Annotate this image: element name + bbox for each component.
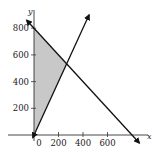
y-tick-label: 200: [13, 103, 29, 113]
x-tick-label: 0: [36, 138, 41, 148]
x-tick-label: 600: [99, 138, 115, 148]
x-tick-label: 200: [50, 138, 66, 148]
plot-area: 0200400600200400600800xy: [8, 7, 152, 148]
y-tick-label: 600: [13, 50, 29, 60]
x-axis-label: x: [147, 132, 152, 141]
y-axis-label: y: [27, 7, 33, 16]
x-tick-label: 400: [75, 138, 91, 148]
y-tick-label: 800: [13, 23, 29, 33]
chart: 0200400600200400600800xy: [0, 0, 155, 156]
y-tick-label: 400: [13, 77, 29, 87]
shaded-region: [34, 28, 67, 135]
